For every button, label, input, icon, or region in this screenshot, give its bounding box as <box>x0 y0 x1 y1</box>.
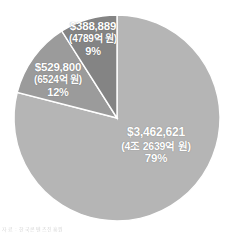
slice-amount-usd: $388,889 <box>57 20 129 33</box>
figure-caption: 자료 : 한국콘텐츠진흥원 <box>2 226 212 233</box>
slice-amount-usd: $529,800 <box>22 61 94 74</box>
pie-slice-label-9-percent: $388,889 (4789억 원) 9% <box>57 20 129 58</box>
slice-amount-krw: (4789억 원) <box>57 33 129 45</box>
slice-percent: 12% <box>22 86 94 99</box>
slice-amount-krw: (6524억 원) <box>22 74 94 86</box>
slice-percent: 79% <box>96 152 216 165</box>
pie-chart-figure: $3,462,621 (4조 2639억 원) 79% $529,800 (65… <box>0 0 233 236</box>
slice-percent: 9% <box>57 45 129 58</box>
slice-amount-usd: $3,462,621 <box>96 126 216 140</box>
slice-amount-krw: (4조 2639억 원) <box>96 140 216 152</box>
pie-slice-label-79-percent: $3,462,621 (4조 2639억 원) 79% <box>96 126 216 165</box>
pie-slice-label-12-percent: $529,800 (6524억 원) 12% <box>22 61 94 99</box>
